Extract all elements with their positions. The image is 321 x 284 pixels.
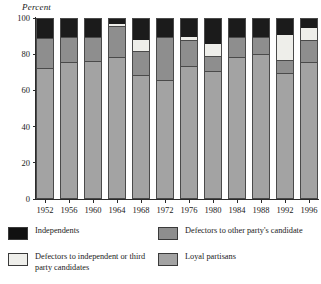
bar-1956 (60, 18, 78, 199)
segment-loyal-partisans (85, 61, 101, 198)
bar-1964 (108, 18, 126, 199)
x-tick-mark (93, 199, 94, 203)
segment-other-party (37, 38, 53, 67)
segment-other-party (181, 40, 197, 66)
segment-loyal-partisans (181, 66, 197, 198)
x-tick-1964: 1964 (108, 199, 126, 217)
bar-stack (156, 18, 174, 199)
legend-label-loyal-partisans: Loyal partisans (185, 252, 236, 263)
x-tick-label: 1968 (133, 205, 150, 215)
x-tick-label: 1952 (37, 205, 54, 215)
bar-stack (300, 18, 318, 199)
x-tick-1960: 1960 (84, 199, 102, 217)
x-tick-1972: 1972 (156, 199, 174, 217)
segment-independents (157, 19, 173, 37)
segment-other-party (253, 37, 269, 54)
loyal-partisans-swatch-icon (158, 253, 178, 266)
x-tick-label: 1956 (61, 205, 78, 215)
segment-loyal-partisans (157, 80, 173, 198)
bar-group (36, 18, 318, 199)
other-party-swatch-icon (158, 227, 178, 240)
x-tick-mark (117, 199, 118, 203)
chart-figure: Percent 020406080100 1952195619601964196… (0, 0, 321, 284)
x-tick-1984: 1984 (228, 199, 246, 217)
bar-1960 (84, 18, 102, 199)
segment-loyal-partisans (61, 62, 77, 198)
segment-third-party (133, 40, 149, 51)
bar-stack (228, 18, 246, 199)
legend-item-other-party: Defectors to other party's candidate (158, 226, 313, 252)
segment-loyal-partisans (205, 71, 221, 198)
segment-independents (37, 19, 53, 38)
segment-loyal-partisans (277, 73, 293, 198)
bar-stack (132, 18, 150, 199)
segment-loyal-partisans (133, 75, 149, 198)
x-tick-1952: 1952 (36, 199, 54, 217)
x-tick-1992: 1992 (276, 199, 294, 217)
segment-loyal-partisans (109, 57, 125, 198)
y-tick-label: 20 (22, 158, 31, 168)
segment-independents (181, 19, 197, 37)
x-tick-mark (45, 199, 46, 203)
legend-label-third-party: Defectors to independent or third party … (35, 252, 153, 273)
segment-independents (277, 19, 293, 35)
bar-1984 (228, 18, 246, 199)
y-tick-label: 80 (22, 49, 31, 59)
x-tick-1976: 1976 (180, 199, 198, 217)
segment-independents (61, 19, 77, 37)
legend-label-other-party: Defectors to other party's candidate (185, 226, 303, 237)
y-tick-label: 40 (22, 122, 31, 132)
segment-loyal-partisans (253, 54, 269, 198)
legend-item-third-party: Defectors to independent or third party … (8, 252, 158, 278)
segment-other-party (109, 26, 125, 57)
x-tick-mark (261, 199, 262, 203)
x-tick-label: 1996 (301, 205, 318, 215)
legend-item-loyal-partisans: Loyal partisans (158, 252, 313, 278)
independents-swatch-icon (8, 227, 28, 240)
bar-stack (108, 18, 126, 199)
segment-other-party (133, 51, 149, 75)
x-tick-label: 1980 (205, 205, 222, 215)
y-tick-label: 0 (26, 194, 30, 204)
x-tick-group: 1952195619601964196819721976198019841988… (36, 199, 318, 217)
segment-other-party (229, 37, 245, 57)
bar-1996 (300, 18, 318, 199)
x-tick-1968: 1968 (132, 199, 150, 217)
bar-stack (180, 18, 198, 199)
segment-other-party (301, 40, 317, 62)
segment-independents (301, 19, 317, 28)
bar-1968 (132, 18, 150, 199)
x-tick-mark (69, 199, 70, 203)
segment-third-party (277, 35, 293, 60)
segment-other-party (277, 60, 293, 73)
x-tick-1988: 1988 (252, 199, 270, 217)
segment-independents (205, 19, 221, 44)
y-axis-title: Percent (22, 2, 51, 12)
x-tick-1996: 1996 (300, 199, 318, 217)
x-tick-label: 1964 (109, 205, 126, 215)
bar-stack (252, 18, 270, 199)
bar-1980 (204, 18, 222, 199)
bar-1952 (36, 18, 54, 199)
x-tick-label: 1992 (277, 205, 294, 215)
x-tick-mark (309, 199, 310, 203)
segment-third-party (301, 28, 317, 40)
third-party-swatch-icon (8, 253, 28, 266)
x-tick-label: 1960 (85, 205, 102, 215)
y-tick-label: 60 (22, 85, 31, 95)
segment-loyal-partisans (229, 57, 245, 198)
x-tick-mark (165, 199, 166, 203)
y-tick-label: 100 (17, 13, 30, 23)
bar-stack (84, 18, 102, 199)
x-tick-label: 1988 (253, 205, 270, 215)
segment-independents (253, 19, 269, 37)
bar-stack (276, 18, 294, 199)
bar-1992 (276, 18, 294, 199)
x-tick-label: 1976 (181, 205, 198, 215)
legend-label-independents: Independents (35, 226, 79, 237)
chart-legend: Independents Defectors to other party's … (8, 226, 313, 278)
x-tick-mark (213, 199, 214, 203)
bar-1976 (180, 18, 198, 199)
legend-item-independents: Independents (8, 226, 158, 252)
x-tick-label: 1984 (229, 205, 246, 215)
